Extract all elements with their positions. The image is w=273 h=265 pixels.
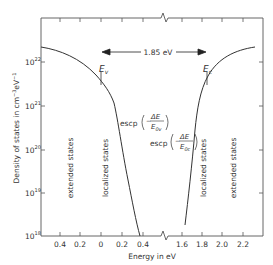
svg-text:E0c: E0c bbox=[180, 143, 191, 152]
svg-text:localized states: localized states bbox=[101, 139, 110, 197]
svg-text:localized states: localized states bbox=[199, 139, 208, 197]
y-axis-label: Density of states in cm−3eV−1 bbox=[11, 73, 21, 184]
tail-equation-conduction: escp − ΔE E0c bbox=[150, 133, 197, 152]
svg-text:ΔE: ΔE bbox=[150, 113, 161, 121]
svg-text:0.2: 0.2 bbox=[74, 240, 86, 249]
svg-text:extended states: extended states bbox=[229, 138, 238, 199]
svg-text:escp: escp bbox=[150, 139, 168, 148]
x-tick-labels: 0.4 0.2 0 0.2 0.4 1.6 1.8 2.0 2.2 bbox=[54, 240, 249, 249]
conduction-band-curve bbox=[185, 47, 255, 225]
svg-text:E0v: E0v bbox=[151, 123, 163, 132]
svg-text:1020: 1020 bbox=[25, 144, 41, 155]
svg-text:escp: escp bbox=[120, 119, 138, 128]
gap-label: 1.85 eV bbox=[144, 48, 174, 57]
ec-label: Ec bbox=[203, 64, 213, 75]
svg-text:1019: 1019 bbox=[25, 187, 41, 198]
svg-text:0.4: 0.4 bbox=[54, 240, 66, 249]
svg-text:0: 0 bbox=[99, 240, 104, 249]
svg-text:2.0: 2.0 bbox=[216, 240, 228, 249]
ev-label: Ev bbox=[99, 64, 109, 75]
svg-text:2.2: 2.2 bbox=[237, 240, 249, 249]
svg-text:1022: 1022 bbox=[25, 56, 41, 67]
valence-band-curve bbox=[41, 47, 140, 236]
density-of-states-chart: 1022 1021 1020 1019 1018 0.4 0.2 0 0.2 0… bbox=[0, 0, 273, 265]
svg-text:ΔE: ΔE bbox=[179, 133, 190, 141]
svg-text:1.6: 1.6 bbox=[176, 240, 188, 249]
tail-equation-valence: escp − ΔE E0v bbox=[120, 113, 168, 132]
svg-text:1018: 1018 bbox=[25, 230, 41, 241]
svg-text:extended states: extended states bbox=[66, 138, 75, 199]
svg-text:0.2: 0.2 bbox=[116, 240, 128, 249]
svg-text:1.8: 1.8 bbox=[196, 240, 208, 249]
y-tick-labels: 1022 1021 1020 1019 1018 bbox=[25, 56, 41, 241]
x-axis-label: Energy in eV bbox=[128, 252, 176, 261]
svg-text:1021: 1021 bbox=[25, 100, 41, 111]
svg-text:0.4: 0.4 bbox=[137, 240, 149, 249]
